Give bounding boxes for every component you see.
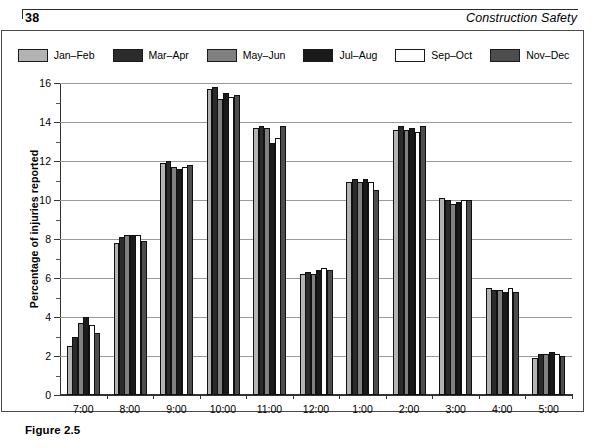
y-axis-tick-label: 4 [45, 311, 51, 323]
y-axis-tick [54, 122, 60, 123]
x-axis-tick-label: 2:00 [399, 403, 419, 415]
y-axis-tick-label: 16 [39, 77, 51, 89]
y-axis-tick-label: 14 [39, 116, 51, 128]
x-axis-tick [200, 394, 201, 399]
bar [280, 126, 286, 395]
x-axis-tick [525, 394, 526, 399]
y-axis-tick [54, 239, 60, 240]
y-axis-minor-tick [56, 337, 60, 338]
y-axis-minor-tick [56, 142, 60, 143]
page-number: 38 [25, 11, 39, 25]
y-axis-tick-label: 0 [45, 389, 51, 401]
bar [141, 241, 147, 395]
y-axis-title: Percentage of injuries reported [28, 109, 40, 349]
x-axis-tick [293, 394, 294, 399]
chart-plot-wrapper: Percentage of injuries reported 02468101… [2, 31, 585, 413]
y-axis-tick [54, 278, 60, 279]
bar [373, 190, 379, 395]
bar [513, 292, 519, 395]
page-header: 38 Construction Safety [0, 0, 595, 30]
y-axis-tick-label: 12 [39, 155, 51, 167]
x-axis-tick [107, 394, 108, 399]
x-axis-tick-label: 12:00 [303, 403, 329, 415]
x-axis-tick-label: 5:00 [539, 403, 559, 415]
header-rule [22, 9, 578, 10]
y-axis-tick [54, 356, 60, 357]
x-axis-tick-label: 11:00 [257, 403, 283, 415]
x-axis-tick-label: 1:00 [352, 403, 372, 415]
running-head: Construction Safety [466, 11, 577, 25]
y-axis-tick [54, 83, 60, 84]
y-axis-minor-tick [56, 298, 60, 299]
x-axis-tick [479, 394, 480, 399]
bar [560, 356, 566, 395]
y-gridline [60, 161, 572, 162]
y-gridline [60, 200, 572, 201]
bar [466, 200, 472, 395]
y-gridline [60, 395, 572, 396]
y-axis-minor-tick [56, 181, 60, 182]
x-axis-tick-label: 10:00 [210, 403, 236, 415]
y-axis-tick [54, 200, 60, 201]
plot-area: 02468101214167:008:009:0010:0011:0012:00… [60, 83, 572, 395]
y-axis-minor-tick [56, 259, 60, 260]
x-axis-tick-label: 7:00 [73, 403, 93, 415]
bar [94, 333, 100, 395]
y-axis-tick-label: 10 [39, 194, 51, 206]
y-axis-tick-label: 6 [45, 272, 51, 284]
bar [187, 165, 193, 395]
y-axis-tick [54, 395, 60, 396]
y-gridline [60, 83, 572, 84]
x-axis-tick [432, 394, 433, 399]
y-axis-minor-tick [56, 376, 60, 377]
x-axis-tick [572, 394, 573, 399]
x-axis-tick [386, 394, 387, 399]
y-axis-tick [54, 317, 60, 318]
chart-figure: Jan–FebMar–AprMay–JunJul–AugSep–OctNov–D… [1, 30, 584, 412]
figure-caption: Figure 2.5 [25, 424, 80, 436]
x-axis-tick [153, 394, 154, 399]
x-axis-tick-label: 3:00 [445, 403, 465, 415]
y-axis-tick [54, 161, 60, 162]
bar [234, 95, 240, 395]
x-axis-tick [246, 394, 247, 399]
x-axis-tick-label: 4:00 [492, 403, 512, 415]
x-axis-tick-label: 9:00 [166, 403, 186, 415]
header-rule-tick [22, 9, 23, 19]
bar [420, 126, 426, 395]
bar [327, 270, 333, 395]
y-axis-minor-tick [56, 103, 60, 104]
y-axis-tick-label: 2 [45, 350, 51, 362]
x-axis-tick-label: 8:00 [120, 403, 140, 415]
y-axis-minor-tick [56, 220, 60, 221]
x-axis-tick [339, 394, 340, 399]
y-axis-tick-label: 8 [45, 233, 51, 245]
y-gridline [60, 122, 572, 123]
